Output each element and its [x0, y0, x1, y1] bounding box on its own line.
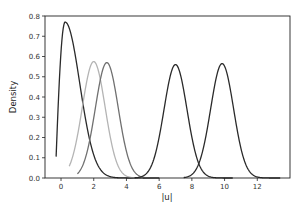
x-axis-label: |u|	[161, 192, 172, 202]
y-tick-label: 0.7	[29, 33, 40, 41]
x-tick-label: 10	[220, 183, 229, 191]
y-tick-label: 0.1	[29, 154, 40, 162]
curve-3-line	[77, 63, 159, 178]
y-tick-label: 0.0	[29, 175, 40, 183]
density-chart: 024681012 0.00.10.20.30.40.50.60.70.8 |u…	[0, 0, 305, 214]
x-tick-label: 6	[157, 183, 162, 191]
y-tick-label: 0.2	[29, 134, 40, 142]
x-tick-label: 4	[124, 183, 129, 191]
y-axis-ticks: 0.00.10.20.30.40.50.60.70.8	[29, 13, 45, 183]
y-tick-label: 0.4	[29, 94, 41, 102]
y-tick-label: 0.6	[29, 53, 41, 61]
y-tick-label: 0.3	[29, 114, 40, 122]
curve-1-line	[56, 22, 159, 178]
x-tick-label: 2	[92, 183, 96, 191]
x-tick-label: 0	[59, 183, 63, 191]
curve-4-line	[135, 65, 233, 178]
curve-2-line	[69, 62, 143, 178]
x-tick-label: 12	[253, 183, 262, 191]
y-tick-label: 0.8	[29, 13, 40, 21]
density-curves	[56, 22, 280, 178]
y-tick-label: 0.5	[29, 73, 40, 81]
y-axis-label: Density	[8, 81, 18, 113]
x-axis-ticks: 024681012	[59, 178, 262, 191]
x-tick-label: 8	[190, 183, 194, 191]
